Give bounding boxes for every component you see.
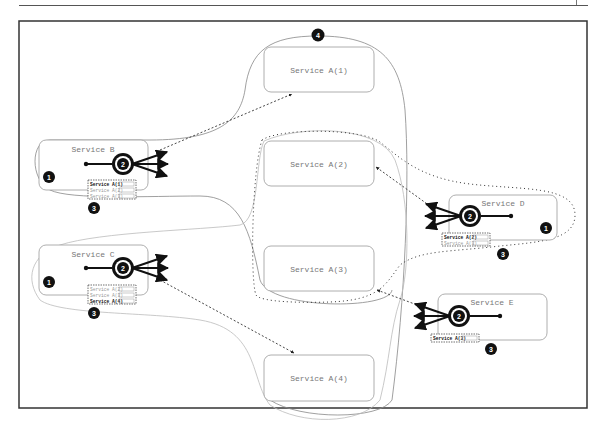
- svg-text:Service A(3): Service A(3): [90, 194, 123, 199]
- service-c[interactable]: Service C 1 2 Service A(2) Service A(3) …: [39, 245, 168, 319]
- service-a-4-label: Service A(4): [290, 374, 348, 383]
- service-c-label: Service C: [71, 250, 114, 259]
- svg-text:Service A(2): Service A(2): [90, 188, 123, 193]
- service-e[interactable]: Service E 2 Service A(3) 3: [414, 294, 547, 355]
- badge-4: 4: [312, 29, 325, 42]
- service-a-2-box[interactable]: Service A(2): [264, 141, 374, 186]
- service-d[interactable]: Service D 1 2 Service A(2) Service A(3) …: [425, 195, 557, 260]
- svg-text:Service A(3): Service A(3): [433, 336, 466, 341]
- service-a-4-box[interactable]: Service A(4): [264, 355, 374, 401]
- routing-table: Service A(1) Service A(2) Service A(3): [88, 180, 136, 199]
- service-a-3-box[interactable]: Service A(3): [264, 246, 374, 291]
- service-a-1-box[interactable]: Service A(1): [264, 47, 374, 92]
- service-a-3-label: Service A(3): [290, 265, 348, 274]
- svg-text:3: 3: [92, 205, 96, 212]
- service-d-label: Service D: [481, 199, 524, 208]
- svg-text:4: 4: [316, 32, 320, 39]
- service-b[interactable]: Service B 1 2 Service A(1) Service A(2) …: [39, 140, 168, 214]
- connection-d-to-a2: [376, 167, 430, 206]
- svg-text:2: 2: [121, 161, 125, 168]
- svg-text:1: 1: [544, 225, 548, 232]
- routing-table: Service A(2) Service A(3): [442, 233, 490, 246]
- routing-table: Service A(2) Service A(3) Service A(4): [88, 285, 136, 304]
- svg-text:Service A(3): Service A(3): [444, 241, 477, 246]
- svg-text:1: 1: [47, 279, 51, 286]
- svg-text:Service A(1): Service A(1): [90, 182, 123, 187]
- svg-text:2: 2: [468, 213, 472, 220]
- service-a-1-label: Service A(1): [290, 66, 348, 75]
- svg-text:2: 2: [457, 313, 461, 320]
- svg-text:3: 3: [92, 310, 96, 317]
- service-e-label: Service E: [470, 298, 513, 307]
- svg-text:3: 3: [501, 251, 505, 258]
- service-b-label: Service B: [71, 145, 114, 154]
- svg-text:Service A(2): Service A(2): [90, 287, 123, 292]
- svg-text:1: 1: [47, 174, 51, 181]
- svg-text:Service A(3): Service A(3): [90, 293, 123, 298]
- svg-text:Service A(4): Service A(4): [90, 299, 123, 304]
- svg-text:Service A(2): Service A(2): [444, 235, 477, 240]
- service-a-2-label: Service A(2): [290, 160, 348, 169]
- svg-text:2: 2: [121, 265, 125, 272]
- service-mesh-diagram: Service A(1) Service A(2) Service A(3) S…: [0, 0, 605, 446]
- svg-text:3: 3: [489, 346, 493, 353]
- routing-table: Service A(3): [431, 334, 479, 342]
